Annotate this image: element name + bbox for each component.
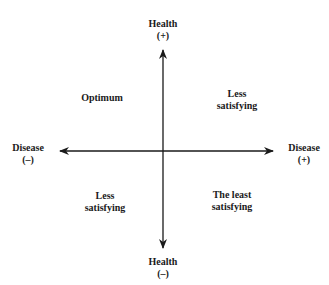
axis-label-left-title: Disease: [6, 142, 50, 154]
quadrant-top-right-line1: Less: [205, 88, 269, 100]
quadrant-top-right-label: Less satisfying: [205, 88, 269, 112]
axis-label-right: Disease (+): [282, 142, 326, 166]
axis-label-top-sign: (+): [143, 30, 183, 42]
quadrant-bottom-right-line1: The least: [200, 189, 264, 201]
quadrant-top-right-line2: satisfying: [205, 100, 269, 112]
quadrant-bottom-left-label: Less satisfying: [73, 190, 137, 214]
axis-label-top-title: Health: [143, 18, 183, 30]
axis-label-left-sign: (–): [6, 154, 50, 166]
axis-label-right-title: Disease: [282, 142, 326, 154]
quadrant-bottom-right-label: The least satisfying: [200, 189, 264, 213]
axis-label-bottom-sign: (–): [143, 268, 183, 280]
axis-label-top: Health (+): [143, 18, 183, 42]
quadrant-bottom-left-line2: satisfying: [73, 202, 137, 214]
quadrant-top-left-line1: Optimum: [70, 92, 134, 104]
quadrant-top-left-label: Optimum: [70, 92, 134, 104]
quadrant-bottom-right-line2: satisfying: [200, 201, 264, 213]
axis-label-left: Disease (–): [6, 142, 50, 166]
axis-label-bottom-title: Health: [143, 256, 183, 268]
quadrant-bottom-left-line1: Less: [73, 190, 137, 202]
axis-label-bottom: Health (–): [143, 256, 183, 280]
axis-label-right-sign: (+): [282, 154, 326, 166]
